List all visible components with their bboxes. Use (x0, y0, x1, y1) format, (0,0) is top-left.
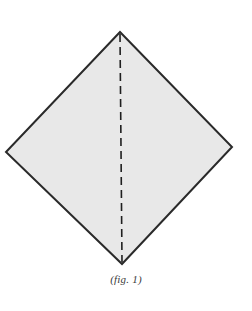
figure-caption: (fig. 1) (0, 272, 252, 286)
paper-diamond-shape (6, 32, 232, 264)
figure-stage: (fig. 1) (0, 0, 252, 311)
origami-diagram (0, 0, 252, 311)
